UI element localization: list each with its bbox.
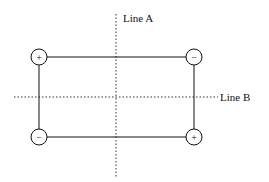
minus-sign-bottom-left: −: [36, 132, 42, 143]
line-a-label: Line A: [123, 12, 153, 24]
minus-sign-top-right: −: [191, 52, 197, 63]
plus-sign-top-left: +: [36, 52, 42, 63]
line-b-label: Line B: [220, 91, 250, 103]
rectangle-diagram: + − − + Line A Line B: [0, 0, 269, 182]
plus-sign-bottom-right: +: [191, 132, 197, 143]
diagram-canvas: + − − + Line A Line B: [0, 0, 269, 182]
